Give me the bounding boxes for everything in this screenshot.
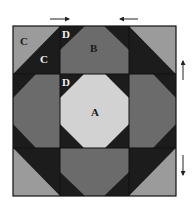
quilt-block-svg: CCDBDA — [0, 0, 195, 210]
label-d-center: D — [62, 76, 70, 88]
quilt-diagram: CCDBDA — [0, 0, 195, 210]
label-a: A — [91, 106, 99, 118]
label-d-top: D — [62, 28, 70, 40]
label-b: B — [90, 42, 98, 54]
label-c-outer: C — [20, 35, 28, 47]
label-c-inner: C — [40, 53, 48, 65]
